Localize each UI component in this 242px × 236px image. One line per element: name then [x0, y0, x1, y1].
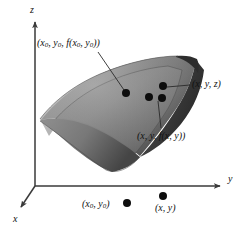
label-point-xy-f: (x, y, f(x, y)) [137, 131, 185, 141]
label-point-xyz: (x, y, z) [192, 79, 221, 89]
label-domain-point-x0y0: (x0, y0) [82, 199, 110, 210]
z-axis-label: z [30, 5, 34, 15]
point-on-surface-extra [145, 93, 153, 101]
x-axis-line [21, 186, 35, 207]
point-on-surface-xy-f [158, 94, 166, 102]
diagram-vector-layer [0, 0, 242, 236]
x-axis-label: x [13, 214, 17, 224]
point-on-surface-xyz [159, 82, 167, 90]
point-domain-xy [159, 192, 167, 200]
label-point-x0y0-f: (x0, y0, f(x0, y0)) [37, 38, 100, 49]
label-domain-point-xy: (x, y) [155, 203, 176, 213]
point-on-surface-x0y0 [122, 89, 130, 97]
figure-canvas: (x0, y0, f(x0, y0)) (x, y, z) (x, y, f(x… [0, 0, 242, 236]
point-domain-x0y0 [123, 199, 131, 207]
y-axis-label: y [228, 174, 232, 184]
surface-group [40, 56, 204, 172]
